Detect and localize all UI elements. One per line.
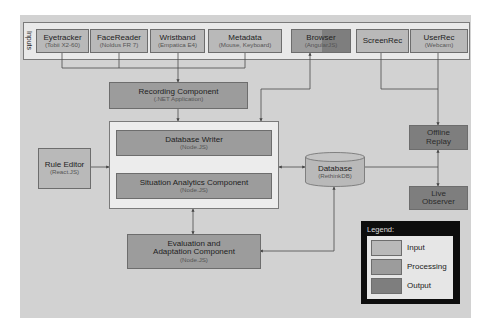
database-node: Database (RethinkDB) bbox=[305, 160, 365, 184]
legend-body: Input Processing Output bbox=[367, 236, 453, 299]
node-subtitle: (Empatica E4) bbox=[158, 42, 197, 49]
node-subtitle: (React.JS) bbox=[50, 169, 79, 176]
offline-replay-node: Offline Replay bbox=[409, 125, 468, 150]
evaluation-adaptation-node: Evaluation and Adaptation Component (Nod… bbox=[127, 234, 261, 269]
legend-swatch-input bbox=[371, 240, 402, 256]
node-subtitle: (AngularJS) bbox=[305, 42, 338, 49]
legend-swatch-output bbox=[371, 278, 402, 294]
node-subtitle: (Node.JS) bbox=[180, 187, 208, 194]
inputs-group-label: Inputs bbox=[25, 25, 35, 55]
legend-item-input: Input bbox=[371, 240, 451, 256]
facereader-node: FaceReader (Noldus FR 7) bbox=[90, 29, 148, 53]
legend-item-processing: Processing bbox=[371, 259, 451, 275]
node-subtitle: (Noldus FR 7) bbox=[100, 42, 139, 49]
screenrec-node: ScreenRec bbox=[356, 29, 409, 53]
node-subtitle: (Node.JS) bbox=[180, 144, 208, 151]
browser-node: Browser (AngularJS) bbox=[291, 29, 351, 53]
node-subtitle: (.NET Application) bbox=[154, 96, 204, 103]
inputs-label-text: Inputs bbox=[27, 30, 34, 49]
legend-label: Processing bbox=[407, 262, 447, 271]
userrec-node: UserRec (Webcam) bbox=[410, 29, 468, 53]
legend-item-output: Output bbox=[371, 278, 451, 294]
rule-editor-node: Rule Editor (React.JS) bbox=[38, 148, 91, 189]
node-title-line2: Observer bbox=[422, 198, 455, 206]
legend-swatch-processing bbox=[371, 259, 402, 275]
node-subtitle: (Tobii X2-60) bbox=[45, 42, 80, 49]
recording-component-node: Recording Component (.NET Application) bbox=[109, 82, 248, 109]
wristband-node: Wristband (Empatica E4) bbox=[150, 29, 205, 53]
node-subtitle: (RethinkDB) bbox=[318, 173, 352, 180]
legend-label: Input bbox=[407, 243, 425, 252]
legend-label: Output bbox=[407, 281, 431, 290]
live-observer-node: Live Observer bbox=[409, 186, 468, 210]
node-title: ScreenRec bbox=[363, 37, 403, 45]
node-title-line2: Replay bbox=[426, 138, 451, 146]
database-writer-node: Database Writer (Node.JS) bbox=[116, 130, 272, 156]
legend: Legend: Input Processing Output bbox=[361, 221, 460, 304]
node-subtitle: (Mouse, Keyboard) bbox=[219, 42, 272, 49]
node-subtitle: (Node.JS) bbox=[180, 257, 208, 264]
node-subtitle: (Webcam) bbox=[425, 42, 453, 49]
eyetracker-node: Eyetracker (Tobii X2-60) bbox=[36, 29, 89, 53]
legend-title: Legend: bbox=[367, 225, 394, 234]
metadata-node: Metadata (Mouse, Keyboard) bbox=[208, 29, 282, 53]
situation-analytics-node: Situation Analytics Component (Node.JS) bbox=[116, 173, 272, 199]
